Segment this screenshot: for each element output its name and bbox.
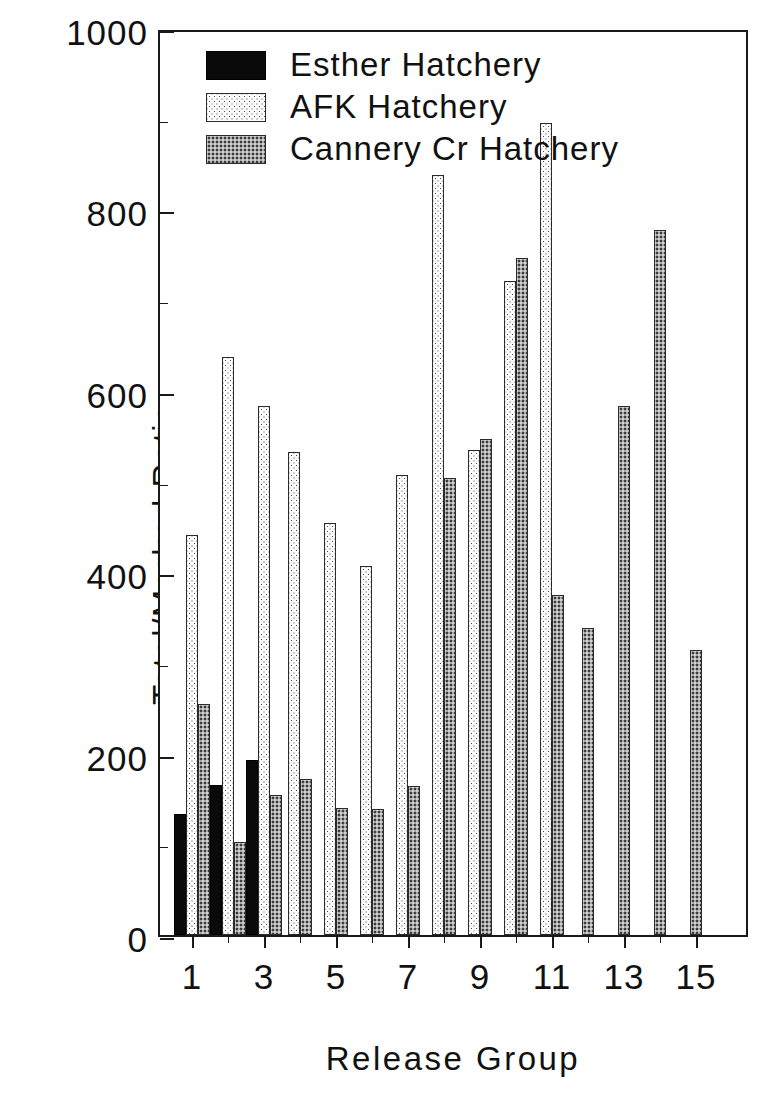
bar-esther-group-1 [174, 814, 186, 935]
bar-afk-group-1 [186, 535, 198, 935]
y-tick-minor [160, 666, 168, 667]
x-tick-major [696, 935, 698, 948]
y-tick-label: 600 [87, 376, 148, 416]
x-tick-label: 1 [182, 957, 202, 997]
bar-chart: Total/Marked Ratio 02004006008001000 135… [0, 0, 773, 1107]
bar-cannery-group-12 [582, 628, 594, 935]
legend-swatch-esther-icon [206, 51, 266, 80]
y-tick-label: 1000 [66, 13, 148, 53]
x-tick-minor [516, 935, 517, 943]
bar-cannery-group-5 [336, 808, 348, 935]
y-tick-major: 600 [160, 394, 174, 396]
bar-cannery-group-14 [654, 230, 666, 935]
bar-esther-group-2 [210, 785, 222, 935]
y-tick-minor [160, 122, 168, 123]
legend-label-afk: AFK Hatchery [290, 88, 507, 126]
bar-afk-group-7 [396, 475, 408, 935]
bar-afk-group-9 [468, 450, 480, 935]
x-tick-label: 7 [398, 957, 418, 997]
legend-item-esther: Esther Hatchery [206, 44, 619, 86]
bar-afk-group-3 [258, 406, 270, 935]
bar-cannery-group-11 [552, 595, 564, 935]
bar-afk-group-8 [432, 175, 444, 935]
x-tick-label: 3 [254, 957, 274, 997]
bar-cannery-group-6 [372, 809, 384, 935]
bar-cannery-group-1 [198, 704, 210, 935]
x-tick-major [336, 935, 338, 948]
bar-afk-group-10 [504, 281, 516, 935]
x-tick-label: 15 [676, 957, 717, 997]
y-tick-minor [160, 303, 168, 304]
bar-afk-group-6 [360, 566, 372, 935]
bar-cannery-group-2 [234, 842, 246, 935]
x-tick-minor [444, 935, 445, 943]
bar-cannery-group-3 [270, 795, 282, 935]
legend-swatch-cannery-icon [206, 135, 266, 164]
x-tick-major [480, 935, 482, 948]
x-tick-label: 5 [326, 957, 346, 997]
bar-esther-group-3 [246, 760, 258, 935]
y-tick-label: 200 [87, 739, 148, 779]
y-tick-minor [160, 847, 168, 848]
x-tick-major [624, 935, 626, 948]
y-tick-minor [160, 485, 168, 486]
legend-item-cannery: Cannery Cr Hatchery [206, 128, 619, 170]
y-tick-label: 400 [87, 557, 148, 597]
bar-afk-group-11 [540, 123, 552, 935]
bar-cannery-group-15 [690, 650, 702, 935]
bar-cannery-group-10 [516, 258, 528, 935]
bar-cannery-group-4 [300, 779, 312, 935]
x-tick-label: 9 [470, 957, 490, 997]
legend: Esther Hatchery AFK Hatchery Cannery Cr … [206, 44, 619, 170]
x-tick-label: 13 [604, 957, 645, 997]
x-tick-minor [372, 935, 373, 943]
x-tick-major [264, 935, 266, 948]
bar-afk-group-5 [324, 523, 336, 935]
bar-afk-group-4 [288, 452, 300, 935]
x-tick-major [408, 935, 410, 948]
legend-item-afk: AFK Hatchery [206, 86, 619, 128]
bar-cannery-group-7 [408, 786, 420, 935]
bar-cannery-group-9 [480, 439, 492, 935]
y-tick-major: 400 [160, 575, 174, 577]
x-tick-major [552, 935, 554, 948]
x-tick-label: 11 [533, 957, 571, 997]
legend-label-esther: Esther Hatchery [290, 46, 542, 84]
x-axis-title: Release Group [160, 1040, 746, 1078]
legend-label-cannery: Cannery Cr Hatchery [290, 130, 619, 168]
x-tick-minor [588, 935, 589, 943]
y-tick-major: 1000 [160, 31, 174, 33]
legend-swatch-afk-icon [206, 93, 266, 122]
bar-cannery-group-8 [444, 478, 456, 935]
bar-afk-group-2 [222, 357, 234, 935]
x-tick-minor [228, 935, 229, 943]
y-tick-major: 0 [160, 938, 174, 940]
y-tick-label: 800 [87, 194, 148, 234]
y-tick-major: 200 [160, 757, 174, 759]
y-tick-label: 0 [128, 920, 148, 960]
x-tick-minor [660, 935, 661, 943]
plot-area: 02004006008001000 13579111315 Esther Hat… [158, 30, 748, 937]
bar-cannery-group-13 [618, 406, 630, 935]
x-tick-major [192, 935, 194, 948]
x-tick-minor [300, 935, 301, 943]
y-tick-major: 800 [160, 212, 174, 214]
